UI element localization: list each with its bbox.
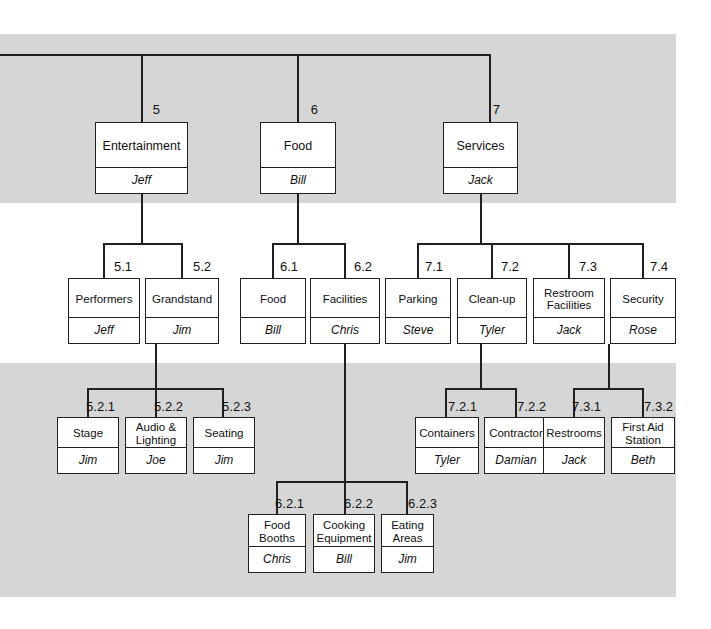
wbs-node-title-7.3: Restroom Facilities (534, 279, 604, 317)
wbs-node-title-7.2.1: Containers (416, 418, 478, 447)
wbs-code-6.2.2: 6.2.2 (313, 497, 373, 511)
connector-level7-bus (417, 243, 643, 245)
wbs-node-5.2.3[interactable]: SeatingJim (193, 417, 255, 474)
wbs-node-7.4[interactable]: SecurityRose (610, 278, 676, 344)
wbs-node-title-5: Entertainment (96, 123, 187, 167)
wbs-code-5.2.1: 5.2.1 (55, 400, 115, 414)
connector-stem-6.2-long (344, 344, 346, 481)
connector-stem-5.2 (155, 344, 157, 388)
wbs-code-6.2.1: 6.2.1 (244, 497, 304, 511)
wbs-node-title-5.1: Performers (69, 279, 139, 317)
connector-level72-bus (445, 388, 516, 390)
wbs-node-5.2.2[interactable]: Audio & LightingJoe (125, 417, 187, 474)
wbs-node-title-5.2.3: Seating (194, 418, 254, 447)
wbs-node-owner-5.2.3: Jim (194, 447, 254, 473)
wbs-node-owner-7.1: Steve (386, 317, 450, 343)
wbs-node-owner-5.2.2: Joe (126, 447, 186, 473)
wbs-node-7.2.2[interactable]: ContractorDamian (484, 417, 548, 474)
wbs-code-7.2.1: 7.2.1 (417, 400, 477, 414)
wbs-code-6.2: 6.2 (312, 260, 372, 274)
wbs-code-6: 6 (258, 103, 318, 117)
wbs-node-owner-5.2.1: Jim (58, 447, 118, 473)
wbs-node-title-5.2: Grandstand (146, 279, 218, 317)
connector-level62-bus (276, 481, 407, 483)
wbs-node-title-6.2.2: Cooking Equipment (314, 515, 374, 546)
wbs-code-7.3.1: 7.3.1 (541, 400, 601, 414)
wbs-node-title-7: Services (444, 123, 517, 167)
wbs-node-owner-5: Jeff (96, 167, 187, 193)
wbs-node-7.3[interactable]: Restroom FacilitiesJack (533, 278, 605, 344)
wbs-node-owner-7.3.2: Beth (612, 447, 674, 473)
wbs-code-7.4: 7.4 (608, 260, 668, 274)
wbs-node-title-6.1: Food (241, 279, 305, 317)
wbs-node-6.2.1[interactable]: Food BoothsChris (248, 514, 306, 573)
wbs-node-title-6: Food (261, 123, 335, 167)
wbs-node-6.2.2[interactable]: Cooking EquipmentBill (313, 514, 375, 573)
wbs-node-title-7.4: Security (611, 279, 675, 317)
wbs-code-5.2.2: 5.2.2 (123, 400, 183, 414)
wbs-code-6.1: 6.1 (238, 260, 298, 274)
wbs-node-owner-7.4: Rose (611, 317, 675, 343)
wbs-node-owner-5.2: Jim (146, 317, 218, 343)
wbs-node-7.3.1[interactable]: RestroomsJack (543, 417, 605, 474)
wbs-node-title-7.2: Clean-up (458, 279, 526, 317)
wbs-node-owner-7.2: Tyler (458, 317, 526, 343)
wbs-node-6[interactable]: FoodBill (260, 122, 336, 194)
wbs-node-7.2[interactable]: Clean-upTyler (457, 278, 527, 344)
wbs-node-owner-7: Jack (444, 167, 517, 193)
wbs-node-5.1[interactable]: PerformersJeff (68, 278, 140, 344)
wbs-node-title-7.2.2: Contractor (485, 418, 547, 447)
wbs-node-owner-6.2.1: Chris (249, 546, 305, 572)
wbs-node-owner-6: Bill (261, 167, 335, 193)
wbs-node-title-6.2: Facilities (311, 279, 379, 317)
connector-stem-7.3 (608, 344, 610, 388)
connector-root-bus (0, 54, 490, 56)
wbs-node-title-7.3.2: First Aid Station (612, 418, 674, 447)
wbs-code-5.2: 5.2 (151, 260, 211, 274)
connector-stem-5 (141, 194, 143, 243)
wbs-node-owner-5.1: Jeff (69, 317, 139, 343)
wbs-node-title-5.2.1: Stage (58, 418, 118, 447)
wbs-node-title-7.3.1: Restrooms (544, 418, 604, 447)
wbs-code-5.2.3: 5.2.3 (191, 400, 251, 414)
wbs-code-5: 5 (100, 103, 160, 117)
wbs-node-7.1[interactable]: ParkingSteve (385, 278, 451, 344)
wbs-node-5.2[interactable]: GrandstandJim (145, 278, 219, 344)
wbs-node-6.1[interactable]: FoodBill (240, 278, 306, 344)
wbs-node-7[interactable]: ServicesJack (443, 122, 518, 194)
connector-stem-6 (297, 194, 299, 243)
connector-stem-7.2 (480, 344, 482, 388)
wbs-node-owner-7.2.2: Damian (485, 447, 547, 473)
wbs-code-7.3.2: 7.3.2 (613, 400, 673, 414)
wbs-code-7.3: 7.3 (537, 260, 597, 274)
wbs-code-7: 7 (440, 103, 500, 117)
wbs-node-7.2.1[interactable]: ContainersTyler (415, 417, 479, 474)
wbs-node-title-6.2.1: Food Booths (249, 515, 305, 546)
wbs-node-5[interactable]: EntertainmentJeff (95, 122, 188, 194)
wbs-code-7.2: 7.2 (459, 260, 519, 274)
wbs-code-7.2.2: 7.2.2 (486, 400, 546, 414)
connector-level5-bus (103, 243, 182, 245)
wbs-node-title-7.1: Parking (386, 279, 450, 317)
wbs-node-5.2.1[interactable]: StageJim (57, 417, 119, 474)
wbs-node-6.2.3[interactable]: Eating AreasJim (381, 514, 434, 573)
wbs-node-7.3.2[interactable]: First Aid StationBeth (611, 417, 675, 474)
wbs-node-owner-6.2.3: Jim (382, 546, 433, 572)
wbs-code-7.1: 7.1 (383, 260, 443, 274)
wbs-diagram-canvas: 5EntertainmentJeff6FoodBill7ServicesJack… (0, 0, 711, 629)
wbs-node-owner-6.1: Bill (241, 317, 305, 343)
wbs-node-6.2[interactable]: FacilitiesChris (310, 278, 380, 344)
connector-stem-7 (480, 194, 482, 243)
wbs-node-owner-6.2.2: Bill (314, 546, 374, 572)
wbs-node-title-5.2.2: Audio & Lighting (126, 418, 186, 447)
wbs-code-5.1: 5.1 (72, 260, 132, 274)
wbs-code-6.2.3: 6.2.3 (377, 497, 437, 511)
connector-level73-bus (573, 388, 643, 390)
wbs-node-title-6.2.3: Eating Areas (382, 515, 433, 546)
wbs-node-owner-6.2: Chris (311, 317, 379, 343)
wbs-node-owner-7.2.1: Tyler (416, 447, 478, 473)
wbs-node-owner-7.3: Jack (534, 317, 604, 343)
connector-level6-bus (272, 243, 345, 245)
wbs-node-owner-7.3.1: Jack (544, 447, 604, 473)
